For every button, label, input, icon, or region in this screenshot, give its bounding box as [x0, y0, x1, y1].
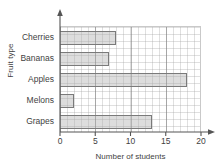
- bar-cherries: [60, 31, 116, 45]
- x-tick-label: 20: [196, 136, 205, 146]
- x-tick-label-list: 0 5 10 15 20: [60, 136, 201, 148]
- plot-area: [60, 26, 201, 132]
- category-label-list: Cherries Bananas Apples Melons Grapes: [8, 26, 56, 132]
- x-axis-arrow-icon: [208, 129, 215, 135]
- bar-row: [60, 69, 200, 90]
- bar-bananas: [60, 52, 109, 66]
- x-tick-label: 0: [58, 136, 63, 146]
- category-label-cherries: Cherries: [8, 26, 56, 47]
- bar-row: [60, 111, 200, 132]
- bar-row: [60, 27, 200, 48]
- bars-layer: [60, 27, 200, 132]
- category-label-grapes: Grapes: [8, 111, 56, 132]
- y-axis-arrow-icon: [57, 9, 63, 16]
- bar-apples: [60, 73, 187, 87]
- x-axis-title: Number of students: [60, 152, 201, 161]
- bar-row: [60, 90, 200, 111]
- bar-melons: [60, 94, 74, 108]
- bar-chart: Fruit type Cherries Bananas Apples Melon…: [0, 0, 222, 168]
- bar-grapes: [60, 115, 152, 129]
- category-label-bananas: Bananas: [8, 47, 56, 68]
- x-tick-label: 10: [126, 136, 135, 146]
- category-label-melons: Melons: [8, 90, 56, 111]
- x-tick-label: 15: [161, 136, 170, 146]
- category-label-apples: Apples: [8, 68, 56, 89]
- x-tick-label: 5: [93, 136, 98, 146]
- bar-row: [60, 48, 200, 69]
